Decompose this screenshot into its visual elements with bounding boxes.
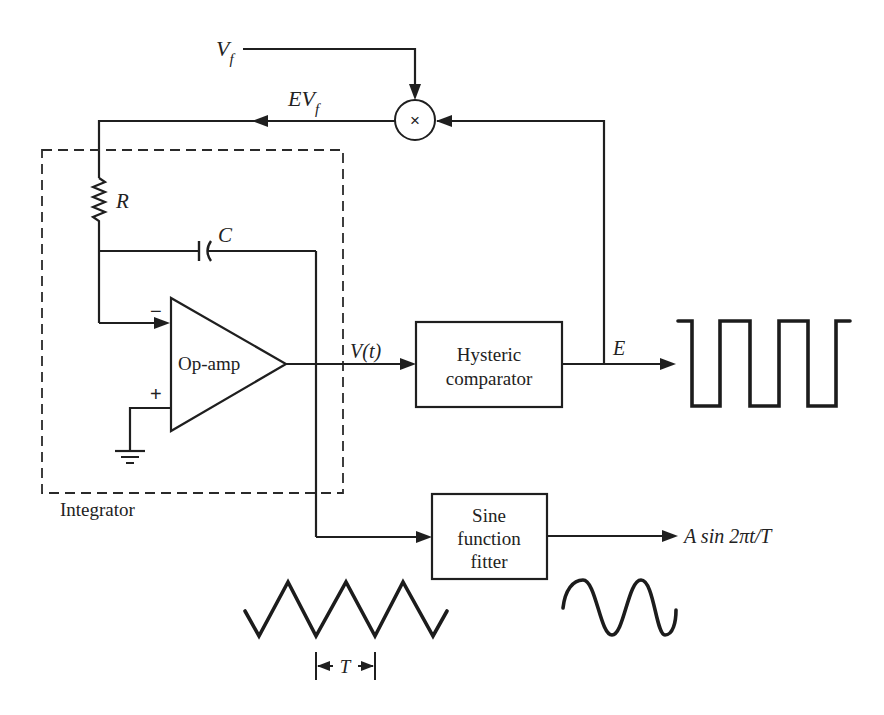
sine-output-arrow-icon [662,530,678,542]
opamp: Op-amp [171,298,286,431]
fitter-line-2: function [457,528,521,549]
opamp-label: Op-amp [178,353,240,374]
fitter-line-3: fitter [471,551,509,572]
fitter-input-arrow-icon [416,531,432,543]
hysteric-comparator-block: Hysteric comparator [416,322,562,407]
evf-arrow-icon [252,115,268,127]
integrator-label: Integrator [60,499,136,520]
comparator-line-2: comparator [446,368,533,389]
vf-input: Vf [216,36,421,100]
fitter-input-group [316,531,432,543]
noninverting-sign: + [150,383,162,405]
noninverting-input: + [115,383,171,463]
vt-arrow-icon [400,358,416,370]
feedback-arrow-icon [436,115,452,127]
period-marker: T [316,652,375,680]
period-right-arrow-icon [361,661,374,671]
period-left-arrow-icon [317,661,330,671]
sine-function-fitter-block: Sine function fitter [432,494,547,579]
capacitor-label: C [218,223,233,247]
circuit-diagram: Vf × EVf Integrator R C − [0,0,884,715]
multiplier: × [395,100,435,140]
fitter-line-1: Sine [472,505,506,526]
period-label: T [340,656,352,677]
vf-label: Vf [216,36,235,67]
evf-wire-group: EVf [99,86,395,178]
sine-output-label: A sin 2πt/T [682,525,773,547]
vf-arrow-icon [409,84,421,100]
vf-wire [243,49,415,92]
resistor-label: R [115,189,129,213]
multiplier-symbol: × [410,111,420,130]
ground-icon [115,451,145,463]
sine-output-group: A sin 2πt/T [547,525,773,547]
vt-label: V(t) [350,340,381,363]
inverting-sign: − [150,300,162,322]
e-output-group: E [562,337,676,370]
evf-label: EVf [287,86,321,117]
square-wave-icon [678,321,850,406]
vt-wire-group: V(t) [286,340,416,370]
sine-wave-icon [563,580,676,635]
e-label: E [612,337,625,359]
triangle-wave-icon [245,582,447,636]
comparator-line-1: Hysteric [457,344,521,365]
e-arrow-icon [660,358,676,370]
inverting-input: − [99,300,170,329]
